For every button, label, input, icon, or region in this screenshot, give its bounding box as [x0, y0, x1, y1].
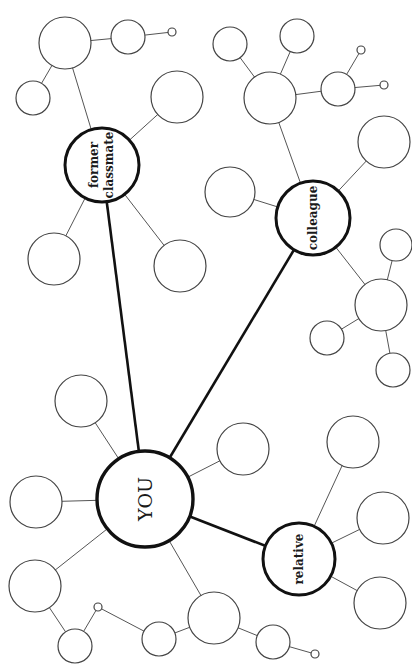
empty-node-circle[interactable] — [357, 492, 409, 544]
empty-node-circle[interactable] — [358, 116, 410, 168]
empty-node-circle[interactable] — [380, 229, 412, 261]
mind-map-diagram: former classmate colleague relative YOU — [0, 0, 412, 666]
empty-node-circle[interactable] — [10, 476, 62, 528]
empty-node-circle[interactable] — [244, 72, 296, 124]
empty-node-circle[interactable] — [327, 416, 379, 468]
former-classmate-label-line1: former — [87, 141, 101, 188]
hub-relative[interactable]: relative — [263, 523, 335, 595]
tiny-node-circle[interactable] — [168, 28, 176, 36]
empty-node-circle[interactable] — [354, 577, 406, 629]
you-label: YOU — [134, 477, 156, 522]
empty-node-circle[interactable] — [142, 622, 176, 656]
empty-node-circle[interactable] — [188, 592, 240, 644]
tiny-node-circle[interactable] — [357, 46, 365, 54]
empty-node-circle[interactable] — [355, 279, 407, 331]
empty-node-circle[interactable] — [9, 560, 61, 612]
tiny-node-circle[interactable] — [94, 603, 102, 611]
empty-node-circle[interactable] — [111, 20, 145, 54]
tiny-node-circle[interactable] — [311, 650, 319, 658]
empty-nodes — [9, 17, 412, 663]
empty-node-circle[interactable] — [55, 375, 107, 427]
primary-connector-line — [102, 165, 145, 499]
empty-node-circle[interactable] — [321, 72, 355, 106]
empty-node-circle[interactable] — [39, 17, 91, 69]
center-you[interactable]: YOU — [97, 451, 193, 547]
hub-colleague[interactable]: colleague — [276, 181, 350, 255]
empty-node-circle[interactable] — [58, 629, 92, 663]
tiny-node-circle[interactable] — [380, 81, 388, 89]
former-classmate-label-line2: classmate — [102, 131, 116, 198]
empty-node-circle[interactable] — [28, 233, 80, 285]
empty-node-circle[interactable] — [213, 27, 247, 61]
empty-node-circle[interactable] — [154, 240, 206, 292]
empty-node-circle[interactable] — [205, 167, 255, 217]
relative-label: relative — [292, 533, 306, 584]
empty-node-circle[interactable] — [151, 71, 203, 123]
colleague-label: colleague — [306, 185, 320, 250]
empty-node-circle[interactable] — [256, 625, 290, 659]
empty-node-circle[interactable] — [310, 321, 344, 355]
empty-node-circle[interactable] — [16, 81, 50, 115]
empty-node-circle[interactable] — [217, 423, 269, 475]
hub-former-classmate[interactable]: former classmate — [65, 128, 139, 202]
empty-node-circle[interactable] — [376, 353, 410, 387]
empty-node-circle[interactable] — [280, 19, 314, 53]
